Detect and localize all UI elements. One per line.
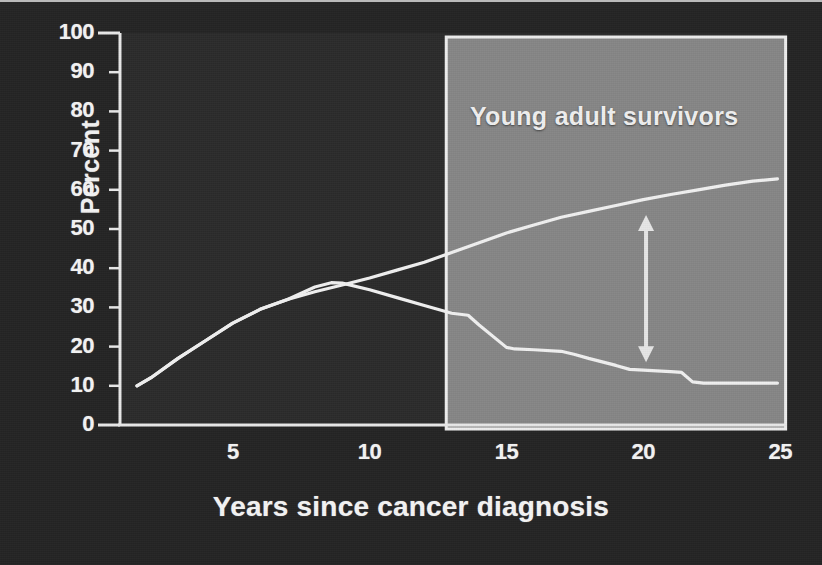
x-axis-title: Years since cancer diagnosis [0,491,822,523]
young-adult-survivors-label: Young adult survivors [470,102,738,131]
shaded-region-fill [446,37,785,429]
chart-figure: Percent 0102030405060708090100 510152025… [0,0,822,565]
plot-canvas [0,2,822,565]
